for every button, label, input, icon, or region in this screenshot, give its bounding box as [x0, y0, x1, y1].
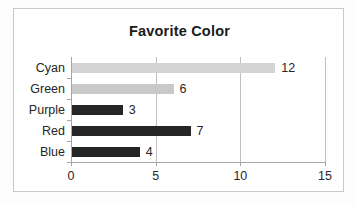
x-tick-label-0: 0 [68, 169, 75, 183]
chart-title: Favorite Color [14, 23, 345, 39]
y-tick-purple [67, 120, 71, 121]
gridline-15 [325, 57, 326, 162]
category-label-red: Red [42, 124, 65, 138]
bar-purple[interactable] [72, 105, 123, 115]
y-tick-blue [67, 162, 71, 163]
chart-frame: Favorite Color 051015Cyan12Green6Purple3… [13, 8, 344, 192]
x-tick-15 [325, 162, 326, 166]
bar-value-blue: 4 [146, 145, 153, 159]
x-axis-line [71, 162, 325, 163]
gridline-5 [156, 57, 157, 162]
category-label-purple: Purple [29, 103, 65, 117]
category-label-blue: Blue [40, 145, 65, 159]
category-label-cyan: Cyan [36, 61, 65, 75]
bar-blue[interactable] [72, 147, 140, 157]
x-tick-label-5: 5 [152, 169, 159, 183]
y-tick-cyan [67, 78, 71, 79]
x-tick-10 [240, 162, 241, 166]
bar-green[interactable] [72, 84, 174, 94]
plot-area: 051015Cyan12Green6Purple3Red7Blue4 [71, 57, 325, 162]
category-label-green: Green [30, 82, 65, 96]
bar-value-red: 7 [197, 124, 204, 138]
bar-value-purple: 3 [129, 103, 136, 117]
x-tick-label-15: 15 [318, 169, 332, 183]
gridline-10 [240, 57, 241, 162]
bar-cyan[interactable] [72, 63, 275, 73]
y-tick-green [67, 99, 71, 100]
y-tick-red [67, 141, 71, 142]
x-tick-0 [71, 162, 72, 166]
bar-red[interactable] [72, 126, 191, 136]
bar-value-green: 6 [180, 82, 187, 96]
x-tick-label-10: 10 [233, 169, 247, 183]
x-tick-5 [156, 162, 157, 166]
chart-page: Favorite Color 051015Cyan12Green6Purple3… [0, 0, 356, 205]
bar-value-cyan: 12 [281, 61, 295, 75]
